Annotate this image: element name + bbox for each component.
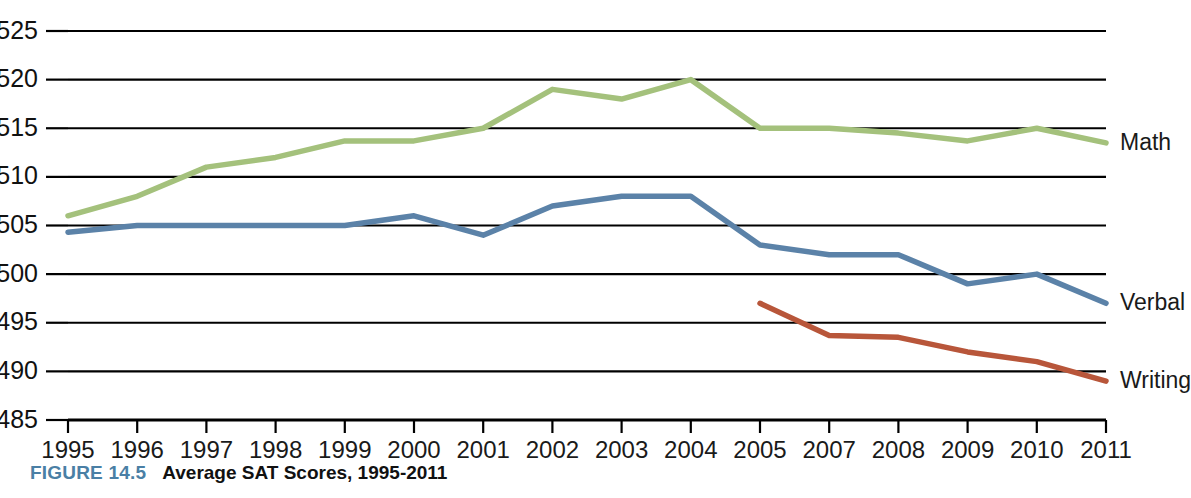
x-tick-label-2009: 2009 [941, 436, 994, 463]
x-axis-ticks [68, 420, 1106, 433]
series-line-math [68, 80, 1106, 216]
x-tick-label-2011: 2011 [1080, 436, 1132, 463]
x-tick-label-2008: 2008 [872, 436, 925, 463]
y-tick-label-505: 505 [0, 210, 38, 238]
y-tick-label-500: 500 [0, 259, 38, 287]
y-tick-label-485: 485 [0, 405, 38, 433]
y-tick-label-520: 520 [0, 64, 38, 92]
x-tick-label-1996: 1996 [111, 436, 164, 463]
series-line-writing [760, 303, 1106, 381]
figure-container: 525520515510505500495490485 199519961997… [0, 0, 1191, 498]
x-tick-label-2005: 2005 [733, 436, 786, 463]
x-tick-label-2002: 2002 [526, 436, 579, 463]
x-tick-label-1999: 1999 [318, 436, 371, 463]
figure-title: Average SAT Scores, 1995-2011 [162, 462, 447, 484]
x-tick-label-2010: 2010 [1010, 436, 1063, 463]
series-label-math: Math [1120, 129, 1171, 155]
x-tick-label-2003: 2003 [595, 436, 648, 463]
series-line-verbal [68, 196, 1106, 303]
x-tick-label-2001: 2001 [457, 436, 510, 463]
x-tick-label-1995: 1995 [41, 436, 94, 463]
y-tick-label-515: 515 [0, 113, 38, 141]
x-tick-label-2004: 2004 [664, 436, 717, 463]
figure-number: FIGURE 14.5 [30, 462, 146, 484]
figure-caption: FIGURE 14.5 Average SAT Scores, 1995-201… [30, 462, 1180, 496]
y-axis-tick-labels: 525520515510505500495490485 [0, 16, 38, 433]
y-tick-label-495: 495 [0, 307, 38, 335]
sat-scores-line-chart: 525520515510505500495490485 199519961997… [0, 0, 1191, 498]
x-tick-label-2007: 2007 [803, 436, 856, 463]
x-tick-label-1998: 1998 [249, 436, 302, 463]
y-tick-label-510: 510 [0, 161, 38, 189]
data-series-lines [68, 80, 1106, 381]
x-axis-tick-labels: 1995199619971998199920002001200220032004… [41, 436, 1132, 463]
x-tick-label-1997: 1997 [180, 436, 233, 463]
y-tick-label-525: 525 [0, 16, 38, 44]
series-labels: MathVerbalWriting [1120, 129, 1191, 393]
series-label-verbal: Verbal [1120, 289, 1185, 315]
series-label-writing: Writing [1120, 367, 1191, 393]
x-tick-label-2000: 2000 [387, 436, 440, 463]
y-tick-label-490: 490 [0, 356, 38, 384]
